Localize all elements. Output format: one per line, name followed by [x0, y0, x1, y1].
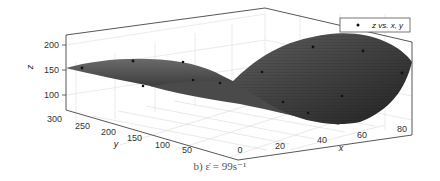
y-tick-250: 250 — [75, 121, 90, 131]
z-tick-200: 200 — [44, 40, 59, 50]
y-tick-150: 150 — [127, 133, 142, 143]
legend-marker-icon — [357, 24, 360, 27]
figure-caption: b) ε̇ = 99s⁻¹ — [0, 160, 440, 173]
y-tick-50: 50 — [182, 145, 192, 155]
z-tick-150: 150 — [44, 65, 59, 75]
x-tick-40: 40 — [317, 135, 327, 145]
y-tick-300: 300 — [47, 114, 62, 124]
y-axis-label: y — [113, 139, 119, 149]
x-tick-60: 60 — [357, 130, 367, 140]
z-axis: 200 150 100 z — [25, 40, 66, 100]
y-tick-100: 100 — [155, 140, 170, 150]
y-axis: 300 250 200 150 100 50 y — [47, 114, 192, 155]
legend: z vs. x, y — [340, 18, 410, 32]
x-tick-0: 0 — [237, 145, 242, 155]
z-tick-100: 100 — [44, 90, 59, 100]
x-tick-80: 80 — [397, 124, 407, 134]
y-tick-200: 200 — [101, 127, 116, 137]
legend-label: z vs. x, y — [371, 21, 404, 30]
surface-plot: 200 150 100 z 300 250 200 150 100 50 y 0… — [0, 0, 440, 181]
z-axis-label: z — [25, 64, 35, 70]
x-axis-label: x — [338, 143, 344, 153]
x-tick-20: 20 — [275, 141, 285, 151]
